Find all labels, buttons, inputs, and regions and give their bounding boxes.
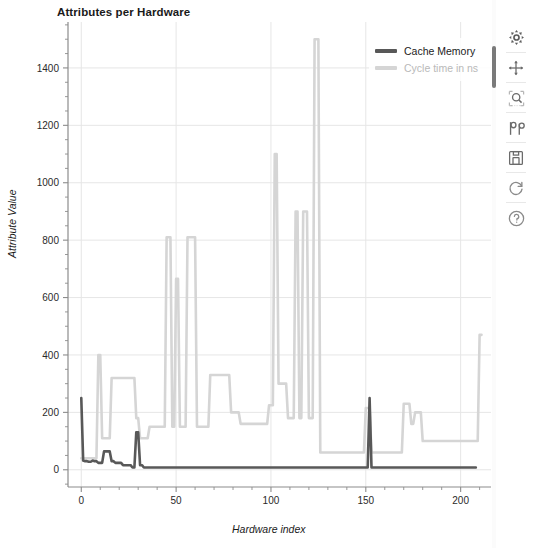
svg-text:0: 0: [53, 464, 59, 475]
data-series: [81, 39, 481, 467]
plot-svg: 0200400600800100012001400050100150200: [0, 0, 492, 548]
zoom-rect-icon: [507, 89, 526, 108]
legend-swatch-cache-memory: [375, 49, 397, 53]
refresh-icon: [507, 179, 525, 197]
svg-text:100: 100: [263, 495, 280, 506]
figure-toolbar: [496, 0, 536, 548]
svg-text:200: 200: [42, 407, 59, 418]
settings-gear-icon: [507, 28, 526, 47]
help-button[interactable]: [501, 203, 531, 233]
svg-text:800: 800: [42, 235, 59, 246]
figure-canvas: Attributes per Hardware 0200400600800100…: [0, 0, 492, 548]
configure-subplots-button[interactable]: [501, 113, 531, 143]
axis-spines: [68, 22, 491, 487]
pan-button[interactable]: [501, 53, 531, 83]
svg-text:600: 600: [42, 292, 59, 303]
legend-item: Cycle time in ns: [375, 59, 495, 76]
svg-text:200: 200: [452, 495, 469, 506]
svg-text:400: 400: [42, 350, 59, 361]
legend-item: Cache Memory: [375, 42, 495, 59]
help-icon: [507, 209, 526, 228]
svg-text:1200: 1200: [37, 120, 60, 131]
chart-application: Attributes per Hardware 0200400600800100…: [0, 0, 536, 548]
svg-text:150: 150: [357, 495, 374, 506]
legend-label-cycle-time: Cycle time in ns: [404, 62, 478, 74]
refresh-button[interactable]: [501, 173, 531, 203]
x-axis-label: Hardware index: [232, 523, 306, 535]
y-axis-label: Attribute Value: [6, 190, 18, 259]
axis-tick-labels: 0200400600800100012001400050100150200: [37, 63, 470, 506]
svg-text:1000: 1000: [37, 177, 60, 188]
svg-text:50: 50: [171, 495, 183, 506]
save-figure-button[interactable]: [501, 143, 531, 173]
zoom-rect-button[interactable]: [501, 83, 531, 113]
chart-legend: Cache Memory Cycle time in ns: [369, 38, 501, 81]
move-pan-icon: [507, 59, 525, 77]
svg-text:0: 0: [78, 495, 84, 506]
legend-swatch-cycle-time: [375, 66, 397, 70]
svg-text:1400: 1400: [37, 63, 60, 74]
grid-lines: [68, 22, 491, 487]
save-icon: [507, 149, 525, 167]
settings-gear-button[interactable]: [501, 22, 531, 52]
legend-label-cache-memory: Cache Memory: [404, 45, 475, 57]
configure-subplots-icon: [507, 119, 526, 138]
